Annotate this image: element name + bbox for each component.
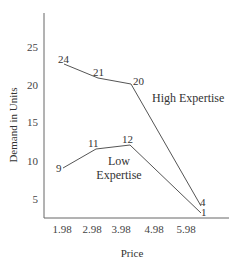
x-tick-5-98: 5.98	[176, 223, 196, 235]
x-tick-2-98: 2.98	[82, 223, 102, 235]
y-tick-15: 15	[27, 116, 39, 128]
line-chart: 25 20 15 10 5 1.98 2.98 3.98 4.98 5.98 P…	[0, 0, 242, 265]
point-label-low-2: 11	[88, 137, 99, 149]
x-tick-3-98: 3.98	[111, 223, 131, 235]
y-tick-25: 25	[27, 41, 39, 53]
x-axis-title: Price	[121, 247, 144, 259]
y-tick-10: 10	[27, 155, 39, 167]
point-label-low-3: 12	[122, 133, 133, 145]
y-tick-20: 20	[27, 79, 39, 91]
y-axis-title: Demand in Units	[7, 87, 19, 162]
series-label-low-line1: Low	[108, 154, 130, 168]
x-tick-4-98: 4.98	[144, 223, 164, 235]
y-tick-5: 5	[33, 193, 39, 205]
point-label-low-4: 1	[201, 206, 207, 218]
series-label-high-expertise: High Expertise	[152, 91, 224, 105]
series-label-low-line2: Expertise	[96, 168, 141, 182]
point-label-low-1: 9	[56, 162, 62, 174]
point-label-high-3: 20	[133, 75, 145, 87]
x-tick-1-98: 1.98	[52, 223, 72, 235]
point-label-high-1: 24	[58, 53, 70, 65]
point-label-high-2: 21	[93, 66, 104, 78]
